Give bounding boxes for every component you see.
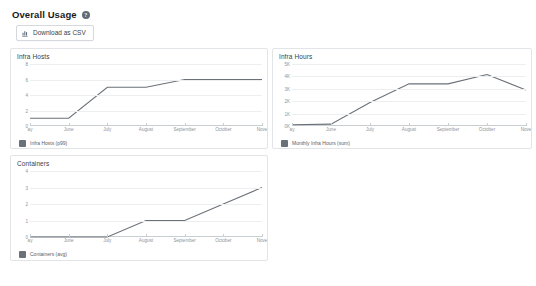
x-axis-tick xyxy=(185,123,186,126)
page-header: Overall Usage ? xyxy=(12,9,528,20)
x-axis-tick xyxy=(262,234,263,237)
x-axis-tick-label: July xyxy=(366,127,374,133)
grid-line xyxy=(30,204,262,205)
x-axis-tick-label: October xyxy=(479,127,495,133)
grid-line xyxy=(292,114,526,115)
y-axis-tick-label: 4 xyxy=(25,169,28,174)
y-axis-tick-label: 4K xyxy=(284,74,290,79)
overall-usage-page: Overall Usage ? Download as CSV Infra Ho… xyxy=(0,0,536,286)
grid-line xyxy=(292,101,526,102)
legend-swatch xyxy=(19,140,26,147)
y-axis-tick-label: 3 xyxy=(25,185,28,190)
x-axis-labels: ayJuneJulyAugustSeptemberOctoberNove xyxy=(30,237,262,246)
plot-area: 5K4K3K2K1K0K xyxy=(278,64,526,126)
y-axis-tick-label: 5K xyxy=(284,62,290,67)
y-axis-tick-label: 2 xyxy=(25,108,28,113)
x-axis-tick xyxy=(69,123,70,126)
plot-canvas[interactable] xyxy=(292,64,526,126)
x-axis-tick-label: July xyxy=(103,127,111,133)
chart-title: Infra Hosts xyxy=(11,49,267,61)
grid-line xyxy=(30,111,262,112)
x-axis-tick xyxy=(69,234,70,237)
chart-legend[interactable]: Infra Hosts (p99) xyxy=(19,140,267,147)
x-axis-tick xyxy=(30,123,31,126)
y-axis-tick-label: 6 xyxy=(25,77,28,82)
grid-line xyxy=(292,64,526,65)
grid-line xyxy=(30,221,262,222)
y-axis-labels: 43210 xyxy=(16,171,29,237)
x-axis-tick-label: September xyxy=(173,127,195,133)
x-axis-tick xyxy=(107,234,108,237)
chart-card-infra-hours: Infra Hours 5K4K3K2K1K0K ayJuneJulyAugus… xyxy=(272,48,532,149)
x-axis-tick xyxy=(107,123,108,126)
x-axis-tick xyxy=(448,123,449,126)
grid-line xyxy=(30,95,262,96)
download-csv-button[interactable]: Download as CSV xyxy=(16,25,94,41)
x-axis-tick xyxy=(331,123,332,126)
x-axis-labels: ayJuneJulyAugustSeptemberOctoberNove xyxy=(292,126,526,135)
x-axis-tick xyxy=(223,123,224,126)
chart-title: Containers xyxy=(11,156,267,168)
chart-card-containers: Containers 43210 ayJuneJulyAugustSeptemb… xyxy=(10,155,268,261)
x-axis-tick-label: Nove xyxy=(521,127,532,133)
legend-label: Infra Hosts (p99) xyxy=(30,140,67,147)
y-axis-tick-label: 4 xyxy=(25,93,28,98)
bar-chart-download-icon xyxy=(22,30,29,37)
plot-area: 43210 xyxy=(16,171,262,237)
x-axis-tick-label: October xyxy=(215,127,231,133)
x-axis-tick-label: July xyxy=(103,238,111,244)
y-axis-tick-label: 2 xyxy=(25,202,28,207)
x-axis-tick-label: June xyxy=(64,127,74,133)
x-axis-tick-label: ay xyxy=(28,127,33,133)
plot-canvas[interactable] xyxy=(30,171,262,237)
x-axis-tick xyxy=(185,234,186,237)
plot-canvas[interactable] xyxy=(30,64,262,126)
x-axis-tick xyxy=(370,123,371,126)
legend-swatch xyxy=(281,140,288,147)
x-axis-tick xyxy=(409,123,410,126)
x-axis-tick xyxy=(30,234,31,237)
x-axis-tick-label: Nove xyxy=(257,238,268,244)
chart-legend[interactable]: Containers (avg) xyxy=(19,251,267,258)
x-axis-tick xyxy=(292,123,293,126)
y-axis-labels: 5K4K3K2K1K0K xyxy=(278,64,291,126)
x-axis-tick-label: June xyxy=(326,127,336,133)
grid-line xyxy=(30,171,262,172)
x-axis-tick-label: September xyxy=(173,238,195,244)
page-title: Overall Usage xyxy=(12,9,77,20)
grid-line xyxy=(292,89,526,90)
y-axis-tick-label: 8 xyxy=(25,62,28,67)
x-axis-labels: ayJuneJulyAugustSeptemberOctoberNove xyxy=(30,126,262,135)
line-series xyxy=(292,64,526,126)
y-axis-tick-label: 1K xyxy=(284,111,290,116)
legend-label: Monthly Infra Hours (sum) xyxy=(292,140,350,147)
x-axis-tick xyxy=(526,123,527,126)
y-axis-tick-label: 2K xyxy=(284,99,290,104)
x-axis-tick xyxy=(262,123,263,126)
x-axis-tick-label: Nove xyxy=(257,127,268,133)
plot-area: 86420 xyxy=(16,64,262,126)
x-axis-tick-label: August xyxy=(402,127,416,133)
y-axis-tick-label: 1 xyxy=(25,218,28,223)
y-axis-labels: 86420 xyxy=(16,64,29,126)
x-axis-tick-label: June xyxy=(64,238,74,244)
chart-title: Infra Hours xyxy=(273,49,531,61)
download-csv-label: Download as CSV xyxy=(33,29,86,37)
grid-line xyxy=(292,76,526,77)
x-axis-tick xyxy=(146,123,147,126)
x-axis-tick xyxy=(146,234,147,237)
legend-swatch xyxy=(19,251,26,258)
x-axis-tick-label: September xyxy=(437,127,459,133)
x-axis-tick-label: October xyxy=(215,238,231,244)
y-axis-tick-label: 3K xyxy=(284,86,290,91)
x-axis-tick-label: August xyxy=(139,238,153,244)
grid-line xyxy=(30,80,262,81)
chart-card-infra-hosts: Infra Hosts 86420 ayJuneJulyAugustSeptem… xyxy=(10,48,268,149)
help-icon[interactable]: ? xyxy=(82,11,90,19)
x-axis-tick-label: August xyxy=(139,127,153,133)
x-axis-tick xyxy=(487,123,488,126)
x-axis-tick-label: ay xyxy=(28,238,33,244)
chart-legend[interactable]: Monthly Infra Hours (sum) xyxy=(281,140,531,147)
legend-label: Containers (avg) xyxy=(30,251,67,258)
x-axis-tick-label: ay xyxy=(290,127,295,133)
